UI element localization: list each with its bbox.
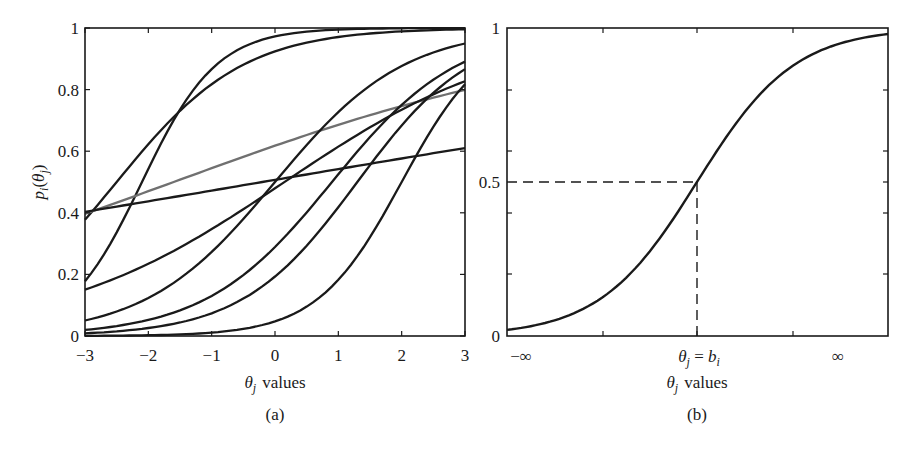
panel-a-ytick-label: 0.6: [58, 142, 79, 161]
panel-b-xtick-bi: θj = bi: [678, 347, 720, 369]
panel-a-ylabel: pi(θj): [29, 165, 51, 201]
panel-b-ytick-0-5: 0.5: [479, 173, 500, 192]
panel-a-ytick-label: 1: [71, 19, 80, 38]
panel-a-xtick-label: 1: [334, 346, 343, 365]
panel-a-curves: [85, 28, 465, 336]
panel-a-xlabel: θjvalues: [244, 373, 305, 395]
curve-item-5: [85, 81, 465, 290]
panel-b-chart: 1 0.5 0 −∞ ∞ θj = bi θjvalues (b): [479, 19, 888, 424]
panel-b-ytick-0: 0: [492, 327, 501, 346]
panel-a-ytick-label: 0.8: [58, 81, 79, 100]
panel-a-tick-labels: −3−2−1012300.20.40.60.81: [58, 19, 470, 365]
panel-a-xtick-label: −2: [139, 346, 157, 365]
panel-a-ytick-label: 0.2: [58, 265, 79, 284]
panel-b-xtick-inf: ∞: [832, 347, 844, 366]
curve-item-8: [85, 69, 465, 333]
panel-b-ytick-1: 1: [492, 19, 501, 38]
curve-item-2: [85, 28, 465, 281]
panel-b-xlabel: θjvalues: [666, 373, 727, 395]
panel-a-xtick-label: 2: [397, 346, 406, 365]
panel-a-caption: (a): [266, 405, 285, 424]
panel-a-ytick-label: 0.4: [58, 204, 80, 223]
curve-item-7: [85, 62, 465, 330]
curve-item-9: [85, 84, 465, 336]
panel-a-xtick-label: 3: [461, 346, 470, 365]
panel-a-xtick-label: 0: [271, 346, 280, 365]
panel-a-ytick-label: 0: [71, 327, 80, 346]
panel-b-xtick-neg-inf: −∞: [510, 347, 532, 366]
figure-canvas: −3−2−1012300.20.40.60.81 pi(θj) θjvalues…: [0, 0, 908, 454]
panel-a-xtick-label: −3: [76, 346, 94, 365]
panel-a-xtick-label: −1: [203, 346, 221, 365]
panel-a-chart: −3−2−1012300.20.40.60.81 pi(θj) θjvalues…: [29, 19, 469, 424]
panel-b-caption: (b): [687, 405, 707, 424]
curve-item-1: [85, 29, 465, 219]
